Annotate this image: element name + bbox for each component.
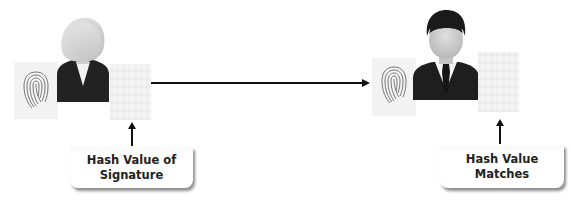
receiver-label-box: Hash Value Matches: [440, 145, 564, 188]
sender-label-box: Hash Value of Signature: [70, 147, 193, 188]
receiver-hash-grid-panel: [478, 52, 519, 112]
sender-hash-grid-panel: [110, 64, 151, 120]
transfer-arrow-line: [151, 82, 363, 84]
fingerprint-icon: [20, 68, 52, 112]
sender-up-arrow-head: [128, 122, 136, 129]
receiver-label-line2: Matches: [466, 167, 538, 182]
transfer-arrow-head: [362, 79, 370, 87]
female-user-icon: [55, 16, 111, 102]
fingerprint-icon: [378, 63, 410, 107]
sender-label-line2: Signature: [87, 168, 176, 183]
male-user-icon: [413, 8, 479, 100]
sender-label-line1: Hash Value of: [87, 153, 176, 168]
receiver-up-arrow-line: [499, 125, 501, 144]
receiver-up-arrow-head: [496, 119, 504, 126]
receiver-label-line1: Hash Value: [466, 152, 538, 167]
sender-up-arrow-line: [131, 128, 133, 146]
